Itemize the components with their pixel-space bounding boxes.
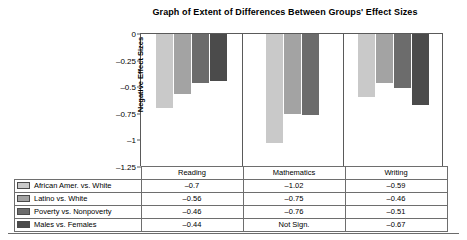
chart-figure: Graph of Extent of Differences Between G… bbox=[0, 0, 467, 240]
bar bbox=[394, 34, 411, 88]
y-tick-label: –0.5 bbox=[120, 83, 136, 92]
chart-title: Graph of Extent of Differences Between G… bbox=[120, 7, 450, 17]
legend-cell: Males vs. Females bbox=[15, 219, 142, 232]
legend-cell: African Amer. vs. White bbox=[15, 180, 142, 193]
table-column-header: Reading bbox=[141, 167, 243, 180]
table-cell: –1.02 bbox=[243, 180, 345, 193]
legend-cell: Poverty vs. Nonpoverty bbox=[15, 206, 142, 219]
y-tick-label: –0.25 bbox=[116, 56, 136, 65]
table-row: Latino vs. White–0.56–0.75–0.46 bbox=[15, 193, 448, 206]
group-separator bbox=[242, 34, 243, 166]
legend-swatch bbox=[17, 208, 30, 215]
table-corner-cell bbox=[15, 167, 142, 180]
bar bbox=[376, 34, 393, 83]
table-cell: –0.46 bbox=[345, 193, 447, 206]
table-body: African Amer. vs. White–0.7–1.02–0.59Lat… bbox=[15, 180, 448, 232]
y-tick-label: –0.75 bbox=[116, 109, 136, 118]
table-row: African Amer. vs. White–0.7–1.02–0.59 bbox=[15, 180, 448, 193]
plot-area: Negative Effect Sizes 0–0.25–0.5–0.75–1–… bbox=[140, 33, 443, 166]
bar bbox=[174, 34, 191, 94]
table-column-header: Writing bbox=[345, 167, 447, 180]
bar bbox=[412, 34, 429, 105]
table-row: Poverty vs. Nonpoverty–0.46–0.76–0.51 bbox=[15, 206, 448, 219]
legend-swatch bbox=[17, 195, 30, 202]
bar bbox=[210, 34, 227, 81]
bar bbox=[302, 34, 319, 115]
bar-group bbox=[141, 34, 242, 166]
table-cell: –0.76 bbox=[243, 206, 345, 219]
legend-cell: Latino vs. White bbox=[15, 193, 142, 206]
table-header-row: ReadingMathematicsWriting bbox=[15, 167, 448, 180]
bar bbox=[266, 34, 283, 143]
table-cell: –0.7 bbox=[141, 180, 243, 193]
legend-label: Latino vs. White bbox=[34, 193, 87, 205]
legend-swatch bbox=[17, 182, 30, 189]
bar bbox=[192, 34, 209, 83]
table-column-header: Mathematics bbox=[243, 167, 345, 180]
table-cell: –0.59 bbox=[345, 180, 447, 193]
bar bbox=[156, 34, 173, 108]
bottom-divider bbox=[8, 233, 459, 234]
y-tick-label: –1 bbox=[127, 136, 136, 145]
table-cell: –0.44 bbox=[141, 219, 243, 232]
bar-group bbox=[242, 34, 343, 166]
table-cell: –0.75 bbox=[243, 193, 345, 206]
table-cell: –0.56 bbox=[141, 193, 243, 206]
table-cell: –0.51 bbox=[345, 206, 447, 219]
y-tick-label: 0 bbox=[132, 30, 136, 39]
legend-label: Males vs. Females bbox=[34, 219, 97, 231]
table-cell: –0.67 bbox=[345, 219, 447, 232]
legend-swatch bbox=[17, 221, 30, 228]
table-row: Males vs. Females–0.44Not Sign.–0.67 bbox=[15, 219, 448, 232]
bar bbox=[284, 34, 301, 114]
group-separator bbox=[343, 34, 344, 166]
table-cell: –0.46 bbox=[141, 206, 243, 219]
data-table: ReadingMathematicsWriting African Amer. … bbox=[14, 166, 448, 232]
bar-group bbox=[343, 34, 444, 166]
legend-label: African Amer. vs. White bbox=[34, 180, 112, 192]
bars-layer bbox=[141, 34, 442, 166]
bar bbox=[358, 34, 375, 97]
legend-label: Poverty vs. Nonpoverty bbox=[34, 206, 112, 218]
table-cell: Not Sign. bbox=[243, 219, 345, 232]
